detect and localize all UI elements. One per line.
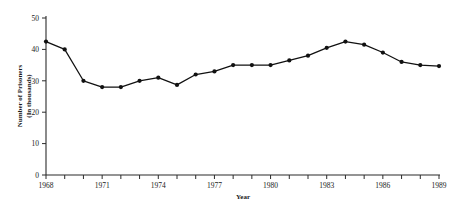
data-point (100, 85, 104, 89)
y-tick-label: 50 (32, 14, 40, 23)
y-tick-label: 0 (35, 171, 39, 180)
data-point (81, 79, 85, 83)
x-axis-title: Year (236, 193, 250, 201)
data-point (137, 79, 141, 83)
data-point (325, 46, 329, 50)
x-tick-label: 1983 (319, 181, 334, 190)
data-point (156, 76, 160, 80)
data-point (175, 83, 179, 87)
series-markers-prisoners (44, 39, 441, 89)
x-tick-label: 1971 (95, 181, 110, 190)
data-point (287, 58, 291, 62)
x-tick-label: 1968 (39, 181, 54, 190)
series-line-prisoners (46, 42, 439, 88)
data-point (381, 50, 385, 54)
data-point (418, 63, 422, 67)
x-axis-ticks (46, 175, 439, 179)
x-tick-label: 1980 (263, 181, 278, 190)
data-point (194, 72, 198, 76)
x-tick-label: 1974 (151, 181, 166, 190)
y-axis-title-line1: Number of Prisoners (16, 64, 24, 127)
data-point (399, 60, 403, 64)
data-point (119, 85, 123, 89)
x-tick-label: 1977 (207, 181, 222, 190)
chart-canvas: 01020304050 1968197119741977198019831986… (0, 0, 459, 214)
data-point (63, 47, 67, 51)
line-chart: 01020304050 1968197119741977198019831986… (0, 0, 459, 214)
data-point (437, 64, 441, 68)
y-axis-title-line2: (In thousands) (25, 74, 33, 118)
data-point (268, 63, 272, 67)
y-tick-label: 40 (32, 45, 40, 54)
x-tick-label: 1986 (375, 181, 390, 190)
data-point (44, 39, 48, 43)
data-point (231, 63, 235, 67)
x-axis-tick-labels: 19681971197419771980198319861989 (39, 181, 447, 190)
y-tick-label: 10 (32, 139, 40, 148)
data-point (250, 63, 254, 67)
data-point (212, 69, 216, 73)
x-tick-label: 1989 (432, 181, 447, 190)
data-point (362, 43, 366, 47)
data-point (343, 39, 347, 43)
data-point (306, 54, 310, 58)
